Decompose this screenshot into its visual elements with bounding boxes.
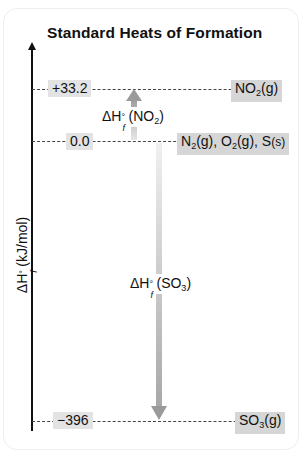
y-axis [31,48,33,431]
y-axis-label: ΔH°f(kJ/mol) [14,211,30,299]
down-arrowhead-icon [151,406,167,420]
level-value-so3: −396 [53,412,93,429]
level-species-so3: SO3(g) [235,412,285,434]
so3-arrow-label: ΔH°f(SO3) [128,274,193,294]
level-value-no2: +33.2 [48,80,91,97]
no2-arrow-label: ΔH°f(NO2) [100,107,166,127]
diagram-title: Standard Heats of Formation [47,24,262,42]
level-value-zero: 0.0 [66,133,93,150]
up-arrowhead-icon [126,89,142,101]
diagram-card [3,8,299,450]
level-species-no2: NO2(g) [231,80,282,102]
level-species-zero: N2(g), O2(g), S(s) [177,133,289,155]
